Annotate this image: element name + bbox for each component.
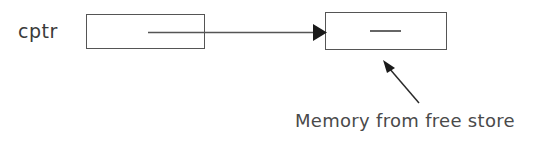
caption-arrowhead-icon	[383, 60, 395, 73]
diagram-canvas: cptr Memory from free store	[0, 0, 541, 144]
caption-pointer-shaft	[389, 68, 419, 103]
heap-memory-box	[325, 12, 447, 50]
pointer-variable-box	[86, 14, 205, 49]
caption-memory-from-free-store: Memory from free store	[295, 110, 515, 131]
variable-label-cptr: cptr	[18, 20, 58, 42]
